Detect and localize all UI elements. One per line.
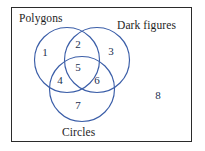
region-number-8: 8 (151, 90, 165, 101)
set-label-dark-figures: Dark figures (117, 20, 176, 32)
region-number-1: 1 (38, 47, 52, 58)
venn-diagram-figure: Polygons Dark figures Circles 1 2 3 4 5 … (0, 0, 205, 151)
set-label-circles: Circles (62, 127, 95, 139)
set-label-polygons: Polygons (19, 13, 63, 25)
region-number-6: 6 (90, 75, 104, 86)
region-number-2: 2 (71, 39, 85, 50)
region-number-7: 7 (71, 100, 85, 111)
region-number-3: 3 (104, 46, 118, 57)
region-number-4: 4 (53, 75, 67, 86)
region-number-5: 5 (71, 62, 85, 73)
